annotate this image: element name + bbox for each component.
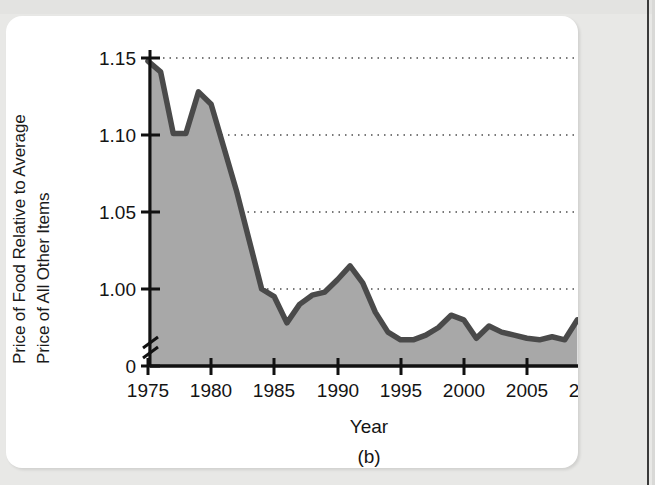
x-tick-label-1985: 1985 xyxy=(253,380,295,401)
x-tick-label-1980: 1980 xyxy=(190,380,232,401)
page-background: Price of Food Relative to Average Price … xyxy=(0,0,655,485)
panel-caption: (b) xyxy=(357,446,380,467)
y-tick-label-1-10: 1.10 xyxy=(99,125,136,146)
x-tick-label-1990: 1990 xyxy=(317,380,359,401)
chart-plot: 1.15 1.10 1.05 1.00 0 1975 1980 xyxy=(0,0,578,470)
y-axis-tick-labels: 1.15 1.10 1.05 1.00 0 xyxy=(99,48,136,377)
page-edge-line xyxy=(647,0,649,485)
x-axis-tick-labels: 1975 1980 1985 1990 1995 2000 2005 2010 xyxy=(127,380,578,401)
y-tick-label-1-15: 1.15 xyxy=(99,48,136,69)
x-tick-label-1975: 1975 xyxy=(127,380,169,401)
y-tick-label-0: 0 xyxy=(125,356,136,377)
figure-panel-b: Price of Food Relative to Average Price … xyxy=(0,0,578,470)
data-area-group xyxy=(148,61,577,366)
x-tick-label-1995: 1995 xyxy=(380,380,422,401)
x-tick-label-2000: 2000 xyxy=(443,380,485,401)
x-tick-label-2010: 2010 xyxy=(569,380,578,401)
y-tick-label-1-05: 1.05 xyxy=(99,202,136,223)
x-axis-title: Year xyxy=(350,416,389,437)
y-tick-label-1-00: 1.00 xyxy=(99,279,136,300)
x-tick-label-2005: 2005 xyxy=(506,380,548,401)
